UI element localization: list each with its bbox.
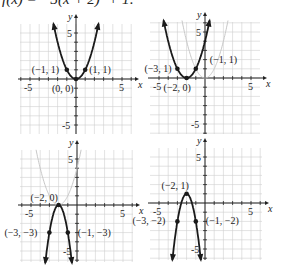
y-axis-label: y: [196, 9, 202, 20]
point-label: (−3, −3): [4, 227, 37, 239]
arrow-icon: [68, 257, 74, 265]
point-marker: [66, 230, 71, 235]
point-marker: [184, 192, 189, 197]
point-marker: [56, 203, 61, 208]
point-label: (−3, −2): [132, 215, 165, 227]
point-label: (−3, 1): [144, 63, 171, 75]
y-tick-label: 5: [196, 27, 201, 38]
point-marker: [175, 219, 180, 224]
point-label: (0, 0): [52, 83, 74, 95]
point-marker: [83, 68, 88, 73]
point-marker: [194, 67, 199, 72]
x-tick-label: -5: [24, 82, 32, 93]
y-axis-label: y: [67, 11, 73, 22]
graph-2: xy-555-5(−3, 1)(−2, 0)(−1, 1): [144, 9, 271, 134]
y-tick-label: 5: [196, 152, 201, 163]
x-axis-label: x: [138, 205, 144, 216]
x-tick-label: -5: [25, 208, 33, 219]
graph-panel: xy-555-5(−1, 1)(0, 0)(1, 1)xy-555-5(−3, …: [0, 0, 283, 270]
point-label: (−2, 1): [162, 180, 189, 192]
graph-4: xy-555-5(−2, 1)(−3, −2)(−1, −2): [132, 135, 273, 262]
y-tick-label: -5: [191, 244, 199, 255]
x-tick-label: 5: [248, 206, 253, 217]
point-marker: [194, 219, 199, 224]
y-tick-label: 5: [68, 154, 73, 165]
arrow-icon: [94, 22, 100, 30]
point-label: (−1, −2): [206, 215, 239, 227]
x-tick-label: 5: [120, 208, 125, 219]
y-tick-label: -5: [62, 120, 70, 131]
graph-1: xy-555-5(−1, 1)(0, 0)(1, 1): [18, 11, 143, 134]
x-axis-label: x: [267, 203, 273, 214]
y-tick-label: 5: [67, 28, 72, 39]
arrow-icon: [43, 257, 49, 265]
point-label: (−1, 1): [32, 64, 59, 76]
x-axis-label: x: [265, 78, 271, 89]
x-tick-label: 5: [119, 82, 124, 93]
point-marker: [65, 68, 70, 73]
point-marker: [47, 230, 52, 235]
point-label: (1, 1): [89, 64, 111, 76]
x-tick-label: 5: [248, 81, 253, 92]
point-label: (−2, 0): [164, 82, 191, 94]
x-tick-label: -5: [153, 81, 161, 92]
point-marker: [175, 67, 180, 72]
x-axis-label: x: [137, 79, 143, 90]
y-axis-label: y: [68, 137, 74, 148]
arrow-icon: [52, 22, 58, 30]
graph-3: xy-555-5(−2, 0)(−3, −3)(−1, −3): [4, 137, 144, 265]
point-label: (−1, 1): [210, 54, 237, 66]
y-axis-label: y: [196, 135, 202, 146]
point-label: (−1, −3): [78, 227, 111, 239]
point-marker: [74, 77, 79, 82]
y-tick-label: -5: [191, 119, 199, 130]
point-label: (−2, 0): [31, 192, 58, 204]
point-marker: [184, 76, 189, 81]
